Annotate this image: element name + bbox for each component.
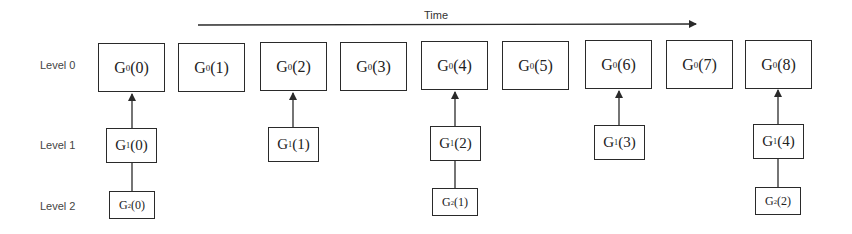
node-index: (6)	[617, 56, 636, 74]
node-g2-2: G2(2)	[755, 187, 801, 215]
time-label: Time	[424, 9, 448, 21]
node-index: (2)	[777, 194, 791, 209]
node-name: G	[439, 135, 450, 152]
node-name: G	[276, 58, 288, 76]
node-g0-1: G0(1)	[178, 43, 245, 92]
node-g0-6: G0(6)	[585, 40, 652, 89]
node-index: (1)	[454, 195, 468, 210]
node-index: (4)	[453, 57, 472, 75]
level-2-label: Level 2	[40, 200, 75, 212]
node-index: (3)	[618, 134, 636, 151]
node-name: G	[356, 58, 368, 76]
node-index: (0)	[131, 198, 145, 213]
node-g1-2: G1(2)	[430, 126, 481, 161]
level-1-label: Level 1	[40, 139, 75, 151]
node-name: G	[682, 56, 694, 74]
node-g0-7: G0(7)	[666, 40, 733, 89]
node-name: G	[194, 59, 206, 77]
node-index: (5)	[534, 57, 553, 75]
node-g1-3: G1(3)	[594, 125, 645, 160]
node-g1-1: G1(1)	[268, 127, 319, 162]
node-name: G	[119, 198, 128, 213]
node-name: G	[114, 59, 126, 77]
node-index: (4)	[777, 133, 795, 150]
node-g1-0: G1(0)	[106, 128, 157, 163]
node-index: (3)	[372, 58, 391, 76]
node-g0-3: G0(3)	[340, 42, 407, 91]
node-g0-4: G0(4)	[421, 41, 488, 90]
node-g2-1: G2(1)	[432, 188, 478, 216]
node-index: (7)	[698, 56, 717, 74]
time-arrow	[198, 24, 696, 25]
level-0-label: Level 0	[40, 59, 75, 71]
node-g0-8: G0(8)	[745, 40, 812, 89]
node-index: (2)	[454, 135, 472, 152]
node-name: G	[601, 56, 613, 74]
node-index: (1)	[292, 136, 310, 153]
node-name: G	[442, 195, 451, 210]
node-name: G	[765, 194, 774, 209]
node-g2-0: G2(0)	[109, 191, 155, 219]
node-g0-5: G0(5)	[502, 41, 569, 90]
node-name: G	[277, 136, 288, 153]
hierarchy-diagram: Time Level 0 Level 1 Level 2 G0(0) G0(1)…	[0, 0, 852, 234]
node-index: (0)	[130, 59, 149, 77]
node-g0-0: G0(0)	[98, 43, 165, 92]
node-index: (8)	[777, 56, 796, 74]
node-g0-2: G0(2)	[260, 42, 327, 91]
node-name: G	[115, 137, 126, 154]
node-name: G	[762, 133, 773, 150]
node-index: (1)	[210, 59, 229, 77]
node-g1-4: G1(4)	[753, 124, 804, 159]
node-name: G	[603, 134, 614, 151]
node-index: (0)	[130, 137, 148, 154]
node-name: G	[761, 56, 773, 74]
node-name: G	[437, 57, 449, 75]
node-name: G	[518, 57, 530, 75]
node-index: (2)	[292, 58, 311, 76]
